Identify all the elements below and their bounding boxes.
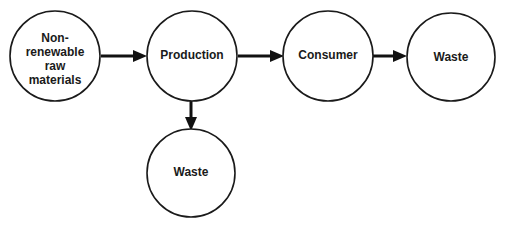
arrowhead-icon — [393, 50, 407, 62]
node-label: Consumer — [298, 48, 358, 62]
edge-production-to-waste — [185, 101, 197, 131]
node-label-line: raw — [45, 59, 66, 73]
node-production: Production — [147, 11, 237, 101]
node-label-line: Non- — [41, 31, 68, 45]
arrowhead-icon — [270, 50, 284, 62]
edge-raw-to-production — [101, 50, 147, 62]
arrowhead-icon — [133, 50, 147, 62]
node-label: Waste — [174, 165, 209, 179]
node-waste-right: Waste — [407, 13, 495, 101]
edge-consumer-to-waste — [373, 50, 407, 62]
node-waste-bottom: Waste — [147, 129, 235, 217]
node-label: Production — [160, 48, 223, 62]
flow-diagram: Non- renewable raw materials Production … — [0, 0, 510, 231]
node-label: Waste — [434, 50, 469, 64]
node-label-line: materials — [29, 73, 82, 87]
node-consumer: Consumer — [283, 11, 373, 101]
node-non-renewable-raw-materials: Non- renewable raw materials — [10, 11, 100, 101]
node-label-line: renewable — [26, 45, 85, 59]
edge-production-to-consumer — [238, 50, 284, 62]
